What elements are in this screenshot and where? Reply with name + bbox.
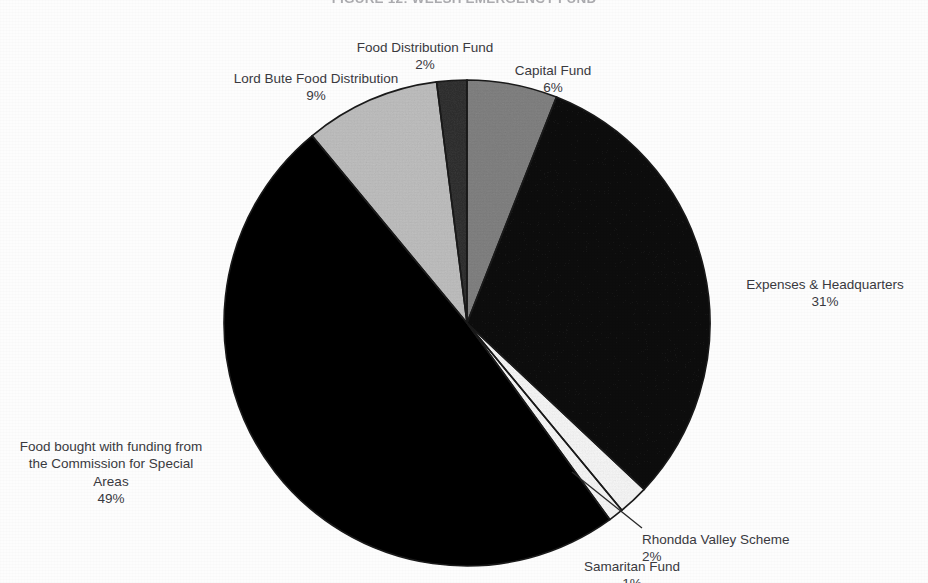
label-text: Food bought with funding from the Commis… <box>20 439 202 489</box>
chart-title: FIGURE 12: WELSH EMERGENCY FUND <box>0 0 928 6</box>
label-percent: 9% <box>196 87 436 105</box>
label-percent: 49% <box>4 490 218 508</box>
label-lord-bute: Lord Bute Food Distribution 9% <box>196 52 436 122</box>
label-percent: 6% <box>484 79 622 97</box>
pie-chart-svg <box>222 78 712 568</box>
label-percent: 31% <box>724 293 926 311</box>
label-expenses-headquarters: Expenses & Headquarters 31% <box>724 258 926 328</box>
label-capital-fund: Capital Fund 6% <box>484 44 622 114</box>
label-text: Lord Bute Food Distribution <box>234 71 398 86</box>
label-text: Expenses & Headquarters <box>746 277 904 292</box>
chart-page: FIGURE 12: WELSH EMERGENCY FUND <box>0 0 928 583</box>
label-text: Samaritan Fund <box>584 559 680 574</box>
label-text: Capital Fund <box>515 63 592 78</box>
pie-chart <box>222 78 712 568</box>
label-percent: 1% <box>562 575 702 583</box>
label-samaritan-fund: Samaritan Fund 1% <box>562 540 702 583</box>
label-commission-special-areas: Food bought with funding from the Commis… <box>4 420 218 525</box>
